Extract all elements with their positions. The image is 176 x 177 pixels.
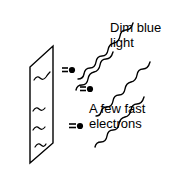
a-few-fast-electrons-label: A few fast electrons [89,101,145,131]
light-wave-2 [76,52,113,90]
plate-surface-wave-2 [33,108,45,111]
a-few-fast-electrons-line-1: A few fast [89,101,145,116]
plate-surface-waves [33,72,50,147]
a-few-fast-electrons-line-2: electrons [89,116,145,131]
dim-blue-light-line-1: Dim blue [110,20,161,35]
electron-2 [80,86,93,92]
electron-1-dot [69,67,75,73]
plate-surface-wave-4 [35,144,46,147]
electron-1 [62,67,75,73]
plate-surface-wave-3 [33,127,45,130]
photoelectric-effect-figure: Dim blue light A few fast electrons [0,0,176,177]
electron-3 [69,123,83,129]
electron-2-dot [87,86,93,92]
plate-surface-wave-1 [34,72,50,80]
dim-blue-light-line-2: light [110,35,161,50]
dim-blue-light-label: Dim blue light [110,20,161,50]
electron-3-dot [77,123,83,129]
